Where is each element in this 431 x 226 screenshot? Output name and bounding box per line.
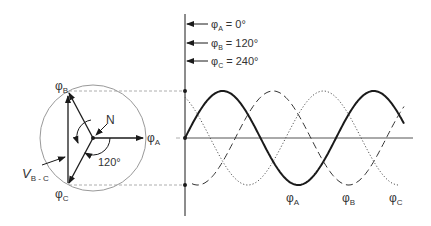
angle-label: 120° <box>98 156 121 168</box>
phasor-a-label: φA <box>147 131 161 147</box>
wave-label-a: φA <box>286 191 300 207</box>
axis-dot-top <box>183 89 187 93</box>
phasor-b-arrow <box>69 93 93 138</box>
legend-c: φC = 240° <box>211 55 259 69</box>
line-voltage-label: VB - C <box>22 166 49 183</box>
legend-a: φA = 0° <box>211 18 246 32</box>
phasor-b-label: φB <box>55 79 68 95</box>
neutral-point <box>91 136 95 140</box>
phase-legend: φA = 0° φB = 120° φC = 240° <box>187 18 259 69</box>
phasor-c-arrow <box>69 138 93 183</box>
phasor-waveform-diagram: N 120° φA φB φC VB - C φA = 0° φB = 120°… <box>0 0 431 226</box>
wave-label-b: φB <box>342 191 355 207</box>
axis-dot-bottom <box>183 183 187 187</box>
phasor-diagram: N 120° φA φB φC VB - C <box>22 79 161 203</box>
wave-label-c: φC <box>389 191 403 207</box>
legend-b: φB = 120° <box>211 37 258 51</box>
neutral-label: N <box>106 113 115 127</box>
phasor-c-label: φC <box>55 187 69 203</box>
